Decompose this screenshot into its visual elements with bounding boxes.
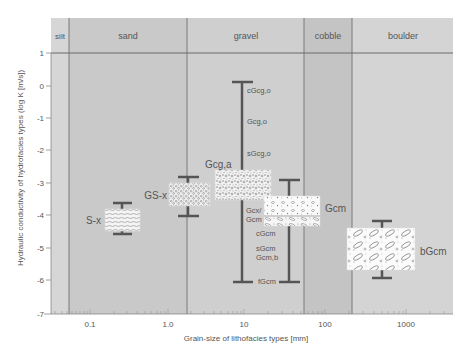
- x-tick-label: 100: [318, 320, 332, 329]
- x-tick-label: 0.1: [84, 320, 96, 329]
- y-tick-label: -4: [37, 211, 45, 220]
- y-ticks: [46, 53, 51, 280]
- zone-label-gravel: gravel: [234, 31, 259, 41]
- x-tick-label: 1.0: [162, 320, 174, 329]
- y-tick-label: 1: [40, 49, 45, 58]
- y-tick-label: -2: [37, 146, 45, 155]
- annotation-gcg-o: Gcg,o: [247, 117, 267, 126]
- annotation-sgcg-o: sGcg,o: [247, 149, 271, 158]
- y-tick-label: 0: [40, 82, 45, 91]
- x-axis-title: Grain-size of lithofacies types [mm]: [184, 334, 308, 343]
- zone-label-boulder: boulder: [388, 31, 418, 41]
- label-gcm: Gcm: [325, 203, 346, 214]
- y-tick-label: -3: [37, 179, 45, 188]
- zone-label-cobble: cobble: [315, 31, 342, 41]
- annotation-cgcm: cGcm: [256, 229, 276, 238]
- annotation-gcm-b: Gcm,b: [256, 253, 278, 262]
- y-axis-title: Hydraulic conductivity of hydrofacies ty…: [16, 70, 25, 266]
- x-tick-label: 10: [240, 320, 249, 329]
- y-tick-label: -5: [37, 244, 45, 253]
- x-tick-labels: 0.1 1.0 10 100 1000: [84, 320, 415, 329]
- zone-silt: [51, 18, 69, 314]
- x-tick-label: 1000: [397, 320, 415, 329]
- y-tick-label: -1: [37, 114, 45, 123]
- zone-label-sand: sand: [118, 31, 138, 41]
- annotation-gcx: Gcx/: [246, 206, 262, 215]
- annotation-gcm: Gcm: [246, 215, 262, 224]
- label-gs-x: GS-x: [144, 190, 167, 201]
- chart: silt sand gravel cobble boulder 1 0 -1 -…: [0, 0, 468, 355]
- label-bgcm: bGcm: [420, 246, 447, 257]
- annotation-fgcm: fGcm: [258, 277, 276, 286]
- zone-label-silt: silt: [55, 32, 66, 41]
- zone-cobble: [304, 18, 352, 314]
- label-s-x: S-x: [86, 215, 101, 226]
- y-tick-label: -6: [37, 276, 45, 285]
- annotation-sgcm: sGcm: [256, 244, 276, 253]
- zone-sand: [69, 18, 187, 314]
- y-tick-label: -7: [37, 310, 45, 319]
- annotation-cgcg-o: cGcg,o: [247, 86, 271, 95]
- label-gcg-a: Gcg,a: [205, 159, 232, 170]
- y-tick-labels: 1 0 -1 -2 -3 -4 -5 -6 -7: [37, 49, 45, 319]
